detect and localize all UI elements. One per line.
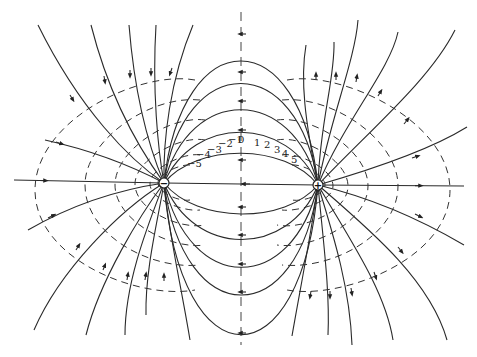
- equipotentials-negative: [35, 79, 205, 292]
- label-3: 3: [274, 144, 280, 155]
- label-2: 2: [264, 139, 270, 150]
- dipole-field-diagram: −5 −4 −3 −2 −1 0 1 2 3 4 5 − +: [0, 0, 477, 357]
- label-4: 4: [282, 148, 288, 159]
- negative-charge: −: [159, 178, 169, 189]
- positive-charge: +: [313, 180, 323, 191]
- label-0: 0: [238, 134, 244, 145]
- positive-charge-sign: +: [314, 180, 322, 191]
- label-5: 5: [291, 154, 297, 165]
- label-1: 1: [254, 137, 260, 148]
- axis-field-line: [14, 180, 464, 186]
- negative-charge-sign: −: [160, 178, 168, 189]
